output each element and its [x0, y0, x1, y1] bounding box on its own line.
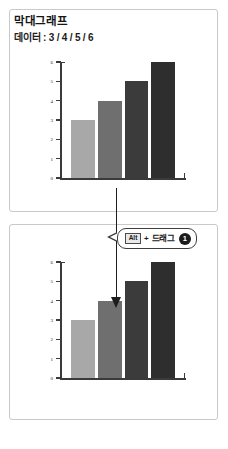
callout-bubble-drag: Alt + 드래그 1: [117, 228, 197, 249]
y-axis-tick-label: 4: [51, 298, 54, 303]
y-axis-tick: [56, 261, 61, 262]
y-axis-tick: [56, 281, 61, 282]
bar: [125, 81, 149, 178]
data-values-label: 데이터 : 3 / 4 / 5 / 6: [14, 29, 93, 44]
y-axis-tick-label: 4: [51, 98, 54, 103]
bar: [71, 120, 95, 178]
bar-series-before: [71, 62, 175, 178]
alt-keycap: Alt: [125, 233, 141, 244]
x-axis-left-cap: [60, 173, 61, 179]
y-axis-tick: [56, 139, 61, 140]
page-title: 막대그래프: [14, 12, 68, 28]
y-axis-tick-label: 6: [51, 260, 54, 265]
step-badge: 1: [179, 233, 191, 245]
down-arrow-icon: [111, 188, 123, 310]
y-axis-tick: [56, 319, 61, 320]
y-axis-tick: [56, 119, 61, 120]
y-axis-tick: [56, 100, 61, 101]
y-axis-tick-label: 3: [51, 318, 54, 323]
x-axis-left-cap: [60, 373, 61, 379]
y-axis-tick-label: 5: [51, 279, 54, 284]
y-axis-tick: [56, 158, 61, 159]
y-axis-tick-label: 0: [51, 376, 54, 381]
y-axis-tick: [56, 339, 61, 340]
bar: [98, 101, 122, 178]
y-axis-tick-label: 3: [51, 118, 54, 123]
y-axis-tick: [56, 61, 61, 62]
y-axis-tick: [56, 358, 61, 359]
bar-series-after: [71, 262, 175, 378]
plus-sign: +: [144, 235, 149, 243]
bar: [98, 301, 122, 378]
callout-action-label: 드래그: [152, 234, 175, 243]
x-axis-right-cap: [184, 173, 185, 179]
y-axis-tick-label: 1: [51, 356, 54, 361]
y-axis-tick-label: 6: [51, 60, 54, 65]
x-axis-right-cap: [184, 373, 185, 379]
y-axis-tick-label: 5: [51, 79, 54, 84]
y-axis-tick-label: 1: [51, 156, 54, 161]
x-axis-line: [60, 178, 186, 180]
y-axis-tick: [56, 300, 61, 301]
y-axis-tick: [56, 81, 61, 82]
y-axis-tick-label: 2: [51, 337, 54, 342]
y-axis-tick-label: 0: [51, 176, 54, 181]
x-axis-line: [60, 378, 186, 380]
arrow-head: [111, 297, 121, 308]
bar: [125, 281, 149, 378]
bar: [151, 62, 175, 178]
arrow-shaft: [116, 188, 117, 300]
bar: [71, 320, 95, 378]
y-axis-tick-label: 2: [51, 137, 54, 142]
bar-chart-before: 0123456: [44, 62, 189, 192]
bar: [151, 262, 175, 378]
